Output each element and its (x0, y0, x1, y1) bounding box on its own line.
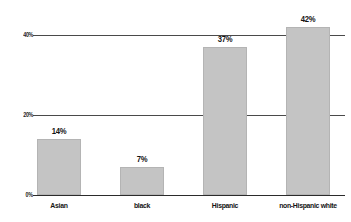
value-label-black: 7% (123, 154, 160, 164)
bar-non-hispanic-white (286, 27, 330, 195)
axis-baseline-0 (33, 195, 345, 196)
value-label-non-hispanic-white: 42% (289, 14, 326, 24)
category-label-black: black (116, 201, 168, 210)
y-tick-label-40: 40% (23, 31, 33, 38)
category-label-hispanic: Hispanic (199, 201, 251, 210)
y-tick-label-0: 0% (26, 191, 33, 198)
y-tick-label-20: 20% (23, 111, 33, 118)
category-label-non-hispanic-white: non-Hispanic white (274, 201, 343, 210)
value-label-asian: 14% (40, 126, 77, 136)
bar-chart: 40% 20% 0% 14% 7% 37% 42% Asian black Hi… (0, 0, 351, 222)
bar-black (120, 167, 164, 195)
category-label-asian: Asian (33, 201, 85, 210)
bar-asian (37, 139, 81, 195)
value-label-hispanic: 37% (206, 34, 243, 44)
plot-area: 40% 20% 0% 14% 7% 37% 42% Asian black Hi… (0, 0, 351, 222)
bar-hispanic (203, 47, 247, 195)
